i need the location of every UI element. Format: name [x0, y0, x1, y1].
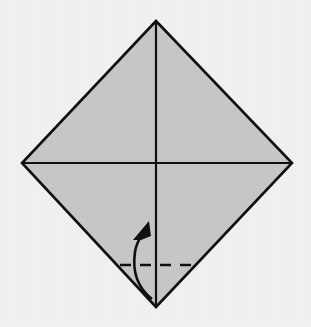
origami-diagram-svg — [0, 0, 311, 327]
origami-diagram-figure — [0, 0, 311, 327]
